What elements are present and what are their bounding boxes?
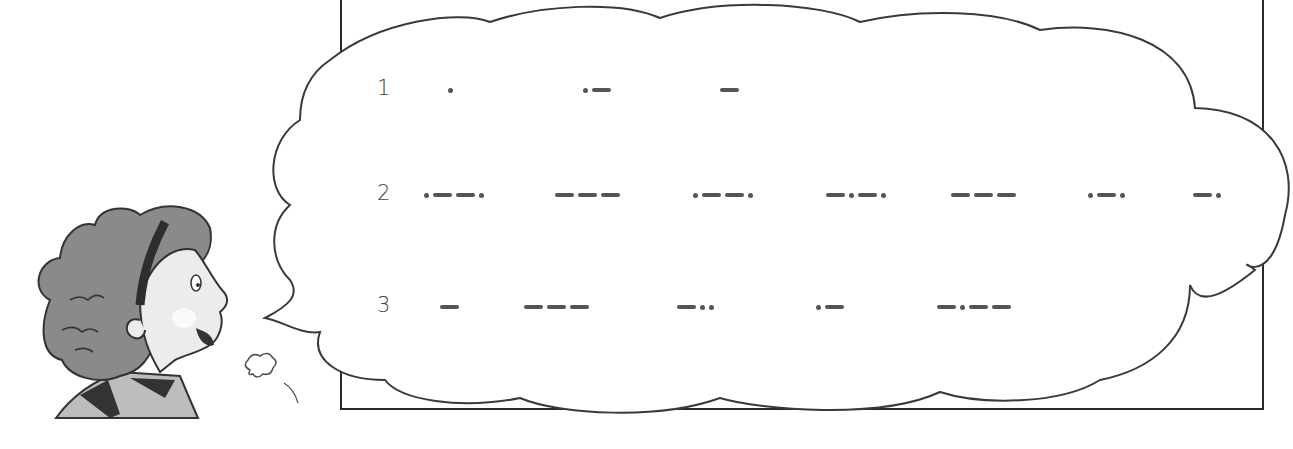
morse-dash bbox=[555, 193, 574, 197]
girl-cheek bbox=[172, 308, 196, 328]
morse-dash bbox=[858, 193, 877, 197]
morse-dash bbox=[524, 305, 543, 309]
morse-dash bbox=[1193, 193, 1212, 197]
morse-dot bbox=[1088, 193, 1093, 198]
morse-dash bbox=[578, 193, 597, 197]
row-number-1: 1 bbox=[377, 76, 390, 100]
morse-letter bbox=[826, 185, 886, 205]
morse-letter bbox=[1193, 185, 1221, 205]
morse-dot bbox=[816, 305, 821, 310]
morse-dash bbox=[1097, 193, 1116, 197]
morse-dash bbox=[601, 193, 620, 197]
row-number-3: 3 bbox=[377, 293, 390, 317]
morse-dash bbox=[702, 193, 721, 197]
morse-dash bbox=[440, 305, 459, 309]
morse-dash bbox=[725, 193, 744, 197]
morse-dash bbox=[570, 305, 589, 309]
speech-cloud-and-girl bbox=[0, 0, 1293, 449]
morse-dash bbox=[592, 88, 611, 92]
morse-dot bbox=[1216, 193, 1221, 198]
morse-dot bbox=[1120, 193, 1125, 198]
morse-dot bbox=[709, 305, 714, 310]
morse-dot bbox=[700, 305, 705, 310]
morse-letter bbox=[693, 185, 753, 205]
morse-dash bbox=[456, 193, 475, 197]
morse-letter bbox=[937, 297, 1011, 317]
morse-dash bbox=[720, 88, 739, 92]
girl-eye bbox=[191, 275, 201, 291]
morse-dot bbox=[479, 193, 484, 198]
morse-dot bbox=[881, 193, 886, 198]
morse-letter bbox=[1088, 185, 1125, 205]
morse-letter bbox=[583, 80, 611, 100]
morse-letter bbox=[720, 80, 739, 100]
girl-shirt bbox=[56, 372, 198, 418]
popcorn-icon bbox=[245, 353, 276, 377]
morse-dash bbox=[433, 193, 452, 197]
morse-dot bbox=[424, 193, 429, 198]
morse-letter bbox=[524, 297, 589, 317]
morse-dot bbox=[849, 193, 854, 198]
morse-letter bbox=[448, 80, 453, 100]
morse-dash bbox=[677, 305, 696, 309]
morse-letter bbox=[816, 297, 844, 317]
morse-dash bbox=[951, 193, 970, 197]
morse-dash bbox=[937, 305, 956, 309]
morse-dash bbox=[547, 305, 566, 309]
speech-cloud bbox=[265, 5, 1289, 413]
morse-letter bbox=[677, 297, 714, 317]
morse-dot bbox=[960, 305, 965, 310]
morse-dash bbox=[992, 305, 1011, 309]
morse-letter bbox=[951, 185, 1016, 205]
morse-dot bbox=[583, 88, 588, 93]
morse-dash bbox=[997, 193, 1016, 197]
morse-letter bbox=[424, 185, 484, 205]
morse-dash bbox=[969, 305, 988, 309]
morse-letter bbox=[555, 185, 620, 205]
row-number-2: 2 bbox=[377, 181, 390, 205]
morse-dot bbox=[693, 193, 698, 198]
morse-letter bbox=[440, 297, 459, 317]
morse-dot bbox=[748, 193, 753, 198]
morse-dash bbox=[974, 193, 993, 197]
morse-dot bbox=[448, 88, 453, 93]
morse-dash bbox=[825, 305, 844, 309]
morse-dash bbox=[826, 193, 845, 197]
